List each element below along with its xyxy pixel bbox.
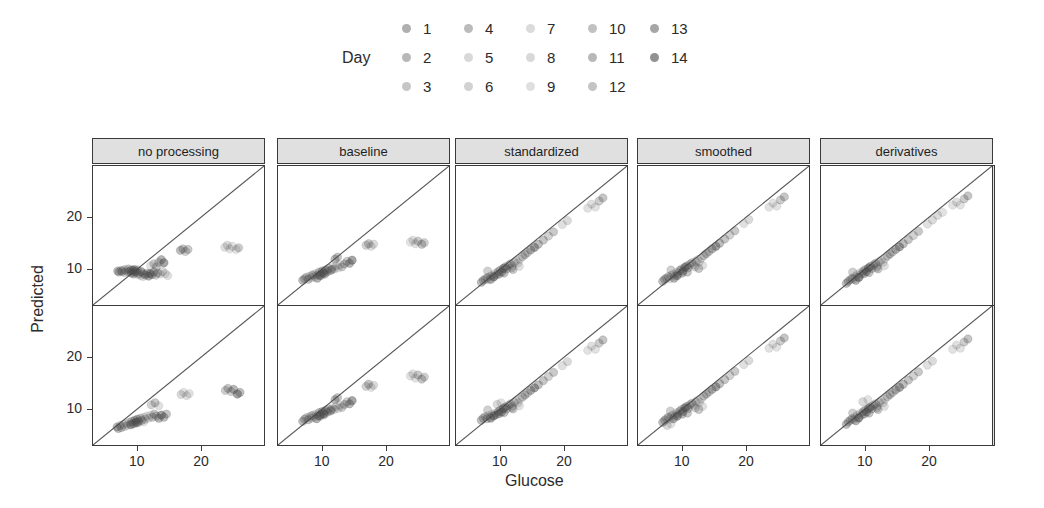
facet-strip-column-label: no processing bbox=[138, 144, 219, 159]
facet-strip-column: standardized bbox=[455, 138, 628, 164]
data-point bbox=[667, 420, 675, 428]
x-tick-mark bbox=[564, 446, 565, 451]
data-point bbox=[137, 267, 145, 275]
data-point bbox=[369, 240, 377, 248]
data-point bbox=[666, 407, 674, 415]
data-point bbox=[964, 335, 972, 343]
data-point bbox=[549, 368, 557, 376]
x-tick-label: 20 bbox=[189, 453, 213, 469]
data-point bbox=[683, 268, 691, 276]
data-point bbox=[563, 357, 571, 365]
facet-strip-column: smoothed bbox=[637, 138, 810, 164]
data-point bbox=[515, 262, 523, 270]
data-point bbox=[549, 228, 557, 236]
scatter-panel bbox=[277, 305, 450, 446]
data-point bbox=[914, 368, 922, 376]
y-tick-mark bbox=[87, 357, 92, 358]
data-point bbox=[500, 408, 508, 416]
x-axis-label: Glucose bbox=[505, 472, 564, 490]
data-point bbox=[333, 253, 341, 261]
x-tick-label: 10 bbox=[125, 453, 149, 469]
data-point bbox=[745, 356, 753, 364]
data-point bbox=[162, 410, 170, 418]
x-tick-mark bbox=[682, 446, 683, 451]
data-point bbox=[928, 357, 936, 365]
y-tick-mark bbox=[87, 269, 92, 270]
data-point bbox=[731, 227, 739, 235]
facet-strip-column: derivatives bbox=[820, 138, 993, 164]
x-tick-mark bbox=[322, 446, 323, 451]
scatter-panel bbox=[277, 165, 450, 306]
facet-strip-column-label: standardized bbox=[504, 144, 578, 159]
scatter-panel bbox=[637, 165, 810, 306]
data-point bbox=[333, 393, 341, 401]
x-tick-label: 20 bbox=[917, 453, 941, 469]
scatter-panel bbox=[92, 165, 265, 306]
data-point bbox=[780, 193, 788, 201]
data-point bbox=[938, 208, 946, 216]
data-point bbox=[185, 389, 193, 397]
data-point bbox=[500, 269, 508, 277]
data-point bbox=[698, 402, 706, 410]
data-point bbox=[160, 259, 168, 267]
data-point bbox=[236, 388, 244, 396]
data-point bbox=[328, 265, 336, 273]
data-point bbox=[155, 402, 163, 410]
y-axis-label: Predicted bbox=[29, 239, 47, 359]
x-tick-label: 20 bbox=[552, 453, 576, 469]
facet-grid: Predicted Glucose no processingbaselines… bbox=[0, 0, 1044, 508]
data-point bbox=[731, 367, 739, 375]
data-point bbox=[914, 227, 922, 235]
data-point bbox=[235, 244, 243, 252]
y-tick-mark bbox=[87, 217, 92, 218]
scatter-panel bbox=[455, 165, 628, 306]
facet-strip-column-label: derivatives bbox=[875, 144, 937, 159]
x-tick-mark bbox=[386, 446, 387, 451]
scatter-panel bbox=[455, 305, 628, 446]
data-point bbox=[420, 239, 428, 247]
x-tick-mark bbox=[137, 446, 138, 451]
data-point bbox=[865, 409, 873, 417]
x-tick-label: 20 bbox=[374, 453, 398, 469]
data-point bbox=[515, 402, 523, 410]
x-tick-label: 10 bbox=[670, 453, 694, 469]
y-tick-mark bbox=[87, 409, 92, 410]
data-point bbox=[307, 412, 315, 420]
data-point bbox=[140, 418, 148, 426]
data-point bbox=[420, 373, 428, 381]
x-tick-label: 10 bbox=[310, 453, 334, 469]
y-tick-label: 10 bbox=[52, 400, 82, 416]
data-point bbox=[880, 402, 888, 410]
data-point bbox=[683, 409, 691, 417]
data-point bbox=[880, 262, 888, 270]
data-point bbox=[327, 406, 335, 414]
facet-strip-column-label: smoothed bbox=[695, 144, 752, 159]
data-point bbox=[497, 399, 505, 407]
facet-strip-column: baseline bbox=[277, 138, 450, 164]
scatter-panel bbox=[820, 165, 993, 306]
facet-strip-column-label: baseline bbox=[339, 144, 387, 159]
data-point bbox=[698, 261, 706, 269]
x-tick-mark bbox=[201, 446, 202, 451]
data-point bbox=[308, 271, 316, 279]
data-point bbox=[348, 397, 356, 405]
data-point bbox=[369, 381, 377, 389]
facet-strip-column: no processing bbox=[92, 138, 265, 164]
x-tick-mark bbox=[746, 446, 747, 451]
scatter-panel bbox=[820, 305, 993, 446]
x-tick-label: 20 bbox=[734, 453, 758, 469]
data-point bbox=[599, 194, 607, 202]
identity-reference-line bbox=[93, 166, 264, 305]
data-point bbox=[745, 215, 753, 223]
data-point bbox=[184, 245, 192, 253]
y-tick-label: 20 bbox=[52, 348, 82, 364]
scatter-panel bbox=[637, 305, 810, 446]
data-point bbox=[563, 216, 571, 224]
scatter-panel bbox=[92, 305, 265, 446]
y-tick-label: 10 bbox=[52, 260, 82, 276]
y-tick-label: 20 bbox=[52, 208, 82, 224]
x-tick-mark bbox=[865, 446, 866, 451]
data-point bbox=[599, 336, 607, 344]
data-point bbox=[348, 256, 356, 264]
data-point bbox=[164, 272, 172, 280]
